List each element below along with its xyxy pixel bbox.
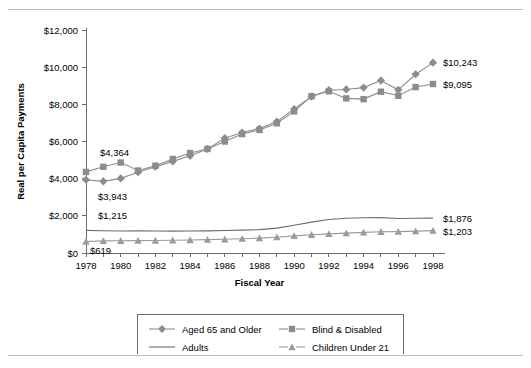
data-point-square — [395, 93, 401, 99]
annotation-blind-start: $4,364 — [100, 147, 129, 158]
line-chart: $0$2,000$4,000$6,000$8,000$10,000$12,000… — [0, 14, 531, 354]
data-point-square — [430, 81, 436, 87]
data-point-square — [118, 159, 124, 165]
annotation-adults-end: $1,876 — [443, 213, 472, 224]
data-point-square — [343, 95, 349, 101]
x-axis-tick-label: 1988 — [249, 260, 270, 271]
y-axis-tick-label: $2,000 — [49, 210, 78, 221]
x-axis-tick-label: 1978 — [75, 260, 96, 271]
data-point-square — [308, 93, 314, 99]
y-axis-tick-label: $12,000 — [44, 25, 78, 36]
series-aged-65-and-older — [82, 59, 437, 186]
data-point-diamond — [360, 84, 368, 92]
y-axis-tick-label: $8,000 — [49, 99, 78, 110]
annotation-children-end: $1,203 — [443, 226, 472, 237]
data-point-square — [187, 150, 193, 156]
data-point-square — [83, 169, 89, 175]
data-point-diamond — [429, 59, 437, 67]
x-axis-tick-label: 1980 — [110, 260, 131, 271]
top-divider-rule — [8, 9, 523, 10]
legend-label: Blind & Disabled — [312, 324, 382, 335]
chart-page: $0$2,000$4,000$6,000$8,000$10,000$12,000… — [0, 0, 531, 368]
data-point-square — [289, 326, 295, 332]
data-point-diamond — [117, 174, 125, 182]
data-point-square — [239, 131, 245, 137]
data-point-square — [222, 138, 228, 144]
legend-item-adults[interactable]: Adults — [149, 342, 209, 353]
x-axis-tick-label: 1982 — [145, 260, 166, 271]
data-point-diamond — [82, 176, 90, 184]
data-point-diamond — [158, 325, 166, 333]
x-axis-tick-label: 1986 — [214, 260, 235, 271]
data-point-square — [412, 84, 418, 90]
y-axis-tick-label: $0 — [67, 248, 78, 259]
annotation-aged-end: $10,243 — [443, 57, 477, 68]
x-axis-tick-label: 1994 — [353, 260, 374, 271]
chart-container: $0$2,000$4,000$6,000$8,000$10,000$12,000… — [0, 14, 531, 354]
data-point-square — [135, 167, 141, 173]
data-point-triangle — [288, 343, 295, 350]
data-point-square — [100, 164, 106, 170]
x-axis-tick-label: 1998 — [422, 260, 443, 271]
annotation-adults-start: $1,215 — [98, 210, 127, 221]
data-point-square — [378, 88, 384, 94]
annotation-blind-end: $9,095 — [443, 79, 472, 90]
data-point-square — [326, 88, 332, 94]
legend-item-aged-65-and-older[interactable]: Aged 65 and Older — [149, 324, 262, 335]
data-point-square — [291, 108, 297, 114]
data-point-square — [204, 146, 210, 152]
x-axis-title: Fiscal Year — [235, 277, 285, 288]
x-axis-tick-label: 1984 — [180, 260, 201, 271]
y-axis-tick-label: $4,000 — [49, 173, 78, 184]
annotation-children-start: $619 — [90, 245, 111, 256]
x-axis-tick-label: 1990 — [284, 260, 305, 271]
data-point-square — [170, 156, 176, 162]
data-point-square — [256, 127, 262, 133]
series-blind-disabled — [83, 81, 436, 175]
data-point-diamond — [377, 76, 385, 84]
data-point-square — [274, 120, 280, 126]
legend-item-children-under-21[interactable]: Children Under 21 — [279, 342, 389, 353]
legend-label: Children Under 21 — [312, 342, 389, 353]
annotation-aged-start: $3,943 — [98, 191, 127, 202]
x-axis-tick-label: 1996 — [388, 260, 409, 271]
data-point-diamond — [342, 85, 350, 93]
legend-label: Adults — [182, 342, 209, 353]
data-point-square — [152, 162, 158, 168]
data-point-diamond — [99, 177, 107, 185]
legend-item-blind-disabled[interactable]: Blind & Disabled — [279, 324, 382, 335]
y-axis-tick-label: $10,000 — [44, 62, 78, 73]
y-axis-title: Real per Capita Payments — [15, 83, 26, 200]
data-point-square — [360, 96, 366, 102]
legend-label: Aged 65 and Older — [182, 324, 262, 335]
x-axis-tick-label: 1992 — [318, 260, 339, 271]
y-axis-tick-label: $6,000 — [49, 136, 78, 147]
bottom-divider-rule — [8, 355, 523, 356]
